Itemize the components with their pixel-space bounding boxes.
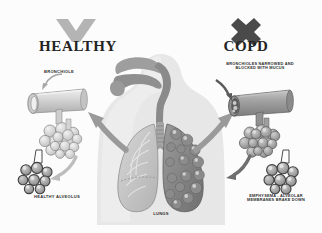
emphysema-label: EMPHYSEMA - ALVEOLAR MEMBRANES BRAKE DOW… (232, 194, 320, 203)
healthy-heading: HEALTHY (8, 38, 148, 55)
copd-bronchiole-label: BRONCHIOLES NARROWED AND BLOCKED WITH MU… (208, 62, 312, 71)
lungs-label: LUNGS (140, 212, 182, 217)
healthy-alveolus-label: HEALTHY ALVEOLUS (14, 195, 100, 200)
arrow-pointer-bronchiole (42, 74, 62, 90)
bronchiole-label: BRONCHIOLE (44, 70, 108, 75)
arrow-pointer-copd-bronchiole (216, 80, 232, 101)
copd-heading: COPD (176, 38, 316, 55)
copd-diagram: HEALTHY COPD BRONCHIOLE BRONCHIOLES NARR… (0, 0, 322, 233)
